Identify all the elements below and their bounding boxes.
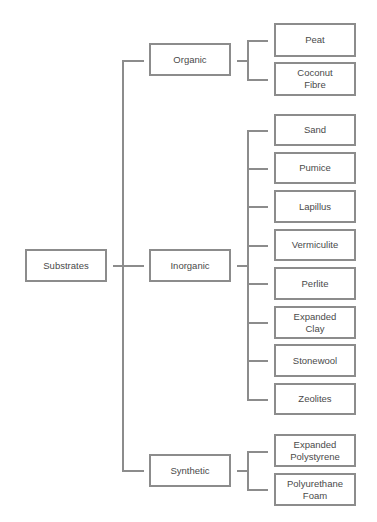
- node-expanded-clay: Expanded Clay: [274, 306, 356, 339]
- connector-pumice: [247, 168, 268, 170]
- connector-polyurethane: [247, 489, 268, 491]
- node-inorganic: Inorganic: [149, 249, 231, 282]
- connector-coconut: [247, 79, 268, 81]
- node-organic: Organic: [149, 43, 231, 76]
- node-vermiculite: Vermiculite: [274, 229, 356, 261]
- connector-synthetic: [122, 470, 144, 472]
- node-peat: Peat: [274, 23, 356, 57]
- connector-stonewool: [247, 360, 268, 362]
- node-pumice: Pumice: [274, 152, 356, 184]
- node-perlite: Perlite: [274, 267, 356, 300]
- node-expanded-polystyrene: Expanded Polystyrene: [274, 434, 356, 467]
- connector-expanded-clay: [247, 322, 268, 324]
- connector-peat: [247, 40, 268, 42]
- connector-trunk: [122, 60, 124, 471]
- connector-organic-spine: [247, 40, 249, 79]
- node-lapillus: Lapillus: [274, 190, 356, 223]
- connector-zeolites: [247, 399, 268, 401]
- connector-organic-out: [237, 60, 247, 62]
- connector-inorganic-out: [237, 265, 247, 267]
- node-substrates: Substrates: [25, 249, 107, 282]
- node-synthetic: Synthetic: [149, 454, 231, 487]
- connector-polystyrene: [247, 451, 268, 453]
- node-zeolites: Zeolites: [274, 383, 356, 415]
- connector-perlite: [247, 283, 268, 285]
- connector-lapillus: [247, 206, 268, 208]
- connector-synthetic-spine: [247, 451, 249, 490]
- connector-root: [113, 265, 144, 267]
- connector-synthetic-out: [237, 470, 247, 472]
- node-coconut-fibre: Coconut Fibre: [274, 62, 356, 96]
- connector-vermiculite: [247, 245, 268, 247]
- node-stonewool: Stonewool: [274, 344, 356, 377]
- node-sand: Sand: [274, 114, 356, 146]
- node-polyurethane-foam: Polyurethane Foam: [274, 473, 356, 506]
- connector-sand: [247, 130, 268, 132]
- connector-organic: [122, 60, 144, 62]
